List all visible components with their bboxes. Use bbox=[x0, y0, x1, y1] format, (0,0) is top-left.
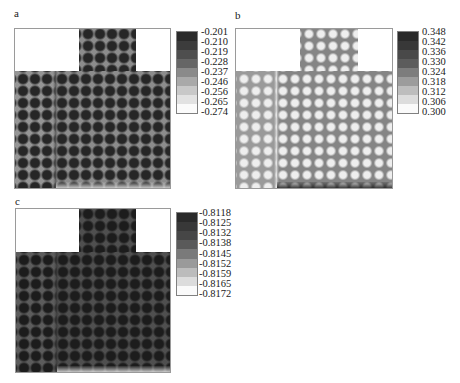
top-protrusion-region bbox=[300, 29, 358, 71]
colorbar-tick-label: -0.8145 bbox=[199, 249, 231, 259]
colorbar-band bbox=[398, 95, 418, 104]
panel-a-colorbar-ticks: -0.201-0.210-0.219-0.228-0.237-0.246-0.2… bbox=[201, 27, 228, 117]
colorbar-band bbox=[177, 41, 197, 50]
left-band-region bbox=[16, 252, 57, 372]
colorbar-band bbox=[398, 50, 418, 59]
colorbar-band bbox=[177, 277, 197, 286]
bottom-edge-strip bbox=[277, 182, 392, 188]
colorbar-band bbox=[177, 95, 197, 104]
colorbar-band bbox=[398, 86, 418, 95]
colorbar-band bbox=[398, 68, 418, 77]
panel-c-colorbar-ticks: -0.8118-0.8125-0.8132-0.8138-0.8145-0.81… bbox=[199, 208, 231, 299]
colorbar-band bbox=[177, 240, 197, 249]
colorbar-band bbox=[177, 86, 197, 95]
colorbar-band bbox=[398, 77, 418, 86]
top-protrusion-region bbox=[79, 209, 136, 252]
panel-b-colorbar bbox=[397, 31, 419, 114]
main-body-region bbox=[57, 252, 170, 372]
panel-a-label: a bbox=[14, 8, 19, 19]
panel-b-colorbar-ticks: 0.3480.3420.3360.3300.3240.3180.3120.306… bbox=[422, 27, 446, 117]
panel-a-colorbar bbox=[176, 31, 198, 114]
panel-c-colorbar bbox=[176, 212, 198, 296]
colorbar-band bbox=[177, 32, 197, 41]
colorbar-band bbox=[177, 222, 197, 231]
main-body-region bbox=[277, 71, 392, 188]
main-body-region bbox=[56, 71, 170, 188]
bottom-edge-strip bbox=[57, 366, 170, 372]
colorbar-band bbox=[398, 59, 418, 68]
colorbar-band bbox=[177, 77, 197, 86]
top-protrusion-region bbox=[79, 29, 136, 71]
colorbar-band bbox=[177, 249, 197, 258]
colorbar-band bbox=[398, 104, 418, 113]
panel-c-field bbox=[15, 208, 171, 373]
colorbar-band bbox=[398, 41, 418, 50]
panel-b-field bbox=[235, 28, 393, 189]
panel-b-label: b bbox=[235, 10, 241, 21]
left-band-region bbox=[236, 71, 277, 188]
colorbar-band bbox=[177, 268, 197, 277]
colorbar-band bbox=[177, 259, 197, 268]
panel-a-field bbox=[14, 28, 171, 189]
band-boundary-stripe bbox=[54, 252, 59, 372]
colorbar-tick-label: 0.300 bbox=[422, 107, 446, 117]
band-boundary-stripe bbox=[53, 71, 58, 188]
colorbar-band bbox=[177, 286, 197, 295]
bottom-edge-strip bbox=[56, 182, 170, 188]
colorbar-band bbox=[177, 68, 197, 77]
colorbar-band bbox=[177, 50, 197, 59]
colorbar-band bbox=[177, 213, 197, 222]
panel-c-label: c bbox=[15, 196, 20, 207]
band-boundary-stripe bbox=[274, 71, 279, 188]
colorbar-band bbox=[177, 59, 197, 68]
colorbar-tick-label: -0.8138 bbox=[199, 238, 231, 248]
colorbar-band bbox=[177, 104, 197, 113]
colorbar-band bbox=[177, 231, 197, 240]
colorbar-tick-label: -0.274 bbox=[201, 107, 228, 117]
colorbar-tick-label: -0.8172 bbox=[199, 289, 231, 299]
left-band-region bbox=[15, 71, 56, 188]
colorbar-band bbox=[398, 32, 418, 41]
